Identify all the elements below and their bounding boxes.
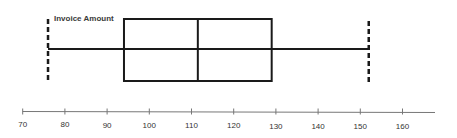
x-axis-line — [23, 112, 435, 113]
chart-title: Invoice Amount — [54, 14, 114, 23]
x-tick-label: 90 — [103, 121, 112, 130]
x-tick-label: 120 — [227, 121, 240, 130]
x-tick-label: 150 — [354, 122, 367, 131]
box-plot-chart: Invoice Amount 7080901001101201301401501… — [0, 0, 457, 138]
x-tick-label: 160 — [396, 122, 409, 131]
x-tick-label: 70 — [18, 120, 27, 129]
box-plot-group — [48, 19, 369, 83]
x-tick-label: 110 — [185, 121, 198, 130]
x-tick-label: 130 — [269, 122, 282, 131]
x-axis — [23, 109, 435, 115]
x-tick-label: 80 — [60, 120, 69, 129]
x-tick-label: 140 — [311, 122, 324, 131]
x-tick-label: 100 — [143, 121, 156, 130]
